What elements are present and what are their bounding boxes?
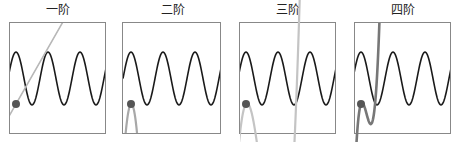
expansion-point (242, 100, 250, 108)
expansion-point (127, 100, 135, 108)
panel-order-1: 一阶 (0, 0, 115, 142)
panel-order-3: 三阶 (230, 0, 345, 142)
panel-order-2: 二阶 (115, 0, 230, 142)
taylor-approximation-curve (121, 104, 142, 142)
plot-order-3 (230, 0, 345, 142)
plot-order-2 (115, 0, 230, 142)
sine-curve (238, 52, 336, 105)
plot-order-4 (345, 0, 461, 142)
plot-order-1 (0, 0, 115, 142)
taylor-approximation-curve (235, 0, 301, 142)
expansion-point (357, 100, 365, 108)
expansion-point (12, 100, 20, 108)
sine-curve (8, 52, 106, 105)
panel-order-4: 四阶 (345, 0, 460, 142)
sine-curve (123, 52, 221, 105)
sine-curve (353, 52, 451, 105)
